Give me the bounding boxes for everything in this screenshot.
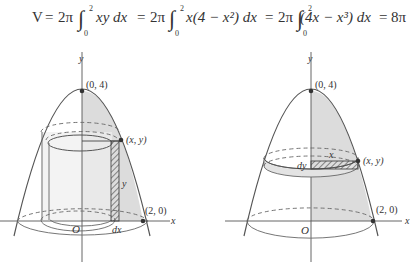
integral-lower: 0: [303, 29, 307, 38]
eq-coef: 2π: [150, 9, 166, 25]
integral-lower: 0: [84, 29, 88, 38]
disk-method-figure: y x (0, 4) (x, y) (2, 0) O x dy: [225, 52, 410, 262]
base-ellipse-front: [17, 221, 148, 235]
root-point: [371, 219, 376, 224]
integral-lower: 0: [175, 29, 179, 38]
x-axis-label: x: [404, 215, 410, 226]
x-axis-label: x: [170, 215, 176, 226]
vertex-label: (0, 4): [315, 79, 337, 91]
thickness-label: dy: [297, 160, 307, 171]
height-label: y: [121, 178, 127, 189]
vertex-point: [309, 89, 314, 94]
hatched-strip: [111, 141, 119, 221]
xy-point: [119, 138, 124, 143]
volume-figure: V = 2π ∫ 2 0 xy dx = 2π ∫ 2 0 x(4 − x²) …: [0, 0, 418, 278]
xy-point: [356, 159, 361, 164]
volume-equation: V = 2π ∫ 2 0 xy dx = 2π ∫ 2 0 x(4 − x²) …: [32, 4, 407, 38]
eq-sign: =: [265, 9, 273, 25]
eq-coef: 2π: [58, 9, 74, 25]
root-point: [141, 219, 146, 224]
point-label: (x, y): [363, 155, 384, 167]
eq-V: V: [32, 9, 43, 25]
root-label: (2, 0): [145, 205, 167, 217]
base-ellipse-front: [247, 221, 374, 238]
eq-coef: 2π: [278, 9, 294, 25]
integrand: (4x − x³) dx: [300, 9, 371, 26]
point-label: (x, y): [126, 134, 147, 146]
integrand: xy dx: [95, 9, 128, 25]
y-axis-label: y: [307, 53, 313, 64]
integrand: x(4 − x²) dx: [185, 9, 257, 26]
eq-sign: =: [45, 9, 53, 25]
eq-result: 8π: [391, 9, 407, 25]
origin-label: O: [301, 224, 309, 236]
hatched-strip: [311, 161, 358, 169]
eq-sign: =: [137, 9, 145, 25]
integral-upper: 2: [180, 4, 184, 13]
cylinder-fill: [41, 132, 112, 220]
shell-method-figure: y x (0, 4) (x, y) (2, 0) O y dx: [0, 52, 176, 262]
root-label: (2, 0): [376, 204, 398, 216]
width-label: dx: [112, 224, 122, 235]
vertex-label: (0, 4): [86, 79, 108, 91]
vertex-point: [80, 89, 85, 94]
eq-sign: =: [379, 9, 387, 25]
origin-label: O: [72, 223, 80, 235]
integral-upper: 2: [89, 4, 93, 13]
radius-label: x: [328, 149, 334, 160]
y-axis-label: y: [78, 53, 84, 64]
